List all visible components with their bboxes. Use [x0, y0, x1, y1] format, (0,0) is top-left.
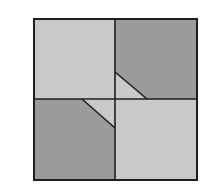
quadrant-top-left	[34, 19, 115, 99]
quadrant-bottom-right	[115, 99, 197, 180]
quadrant-diagram	[0, 0, 215, 195]
